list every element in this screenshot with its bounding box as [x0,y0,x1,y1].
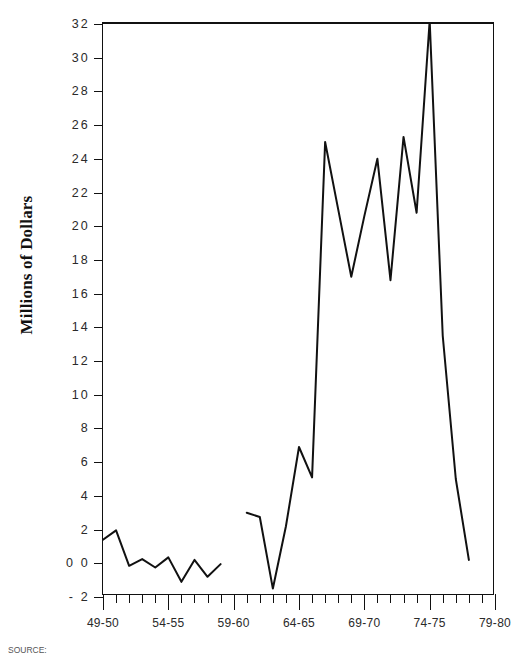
y-axis-tick [94,226,103,227]
y-axis-tick [94,260,103,261]
y-axis-tick-label: 16 [72,287,90,301]
x-axis-minor-tick [129,594,130,603]
y-axis-tick [94,58,103,59]
y-axis-tick [94,563,103,564]
x-axis-tick-label: 74-75 [414,616,446,630]
y-axis-tick-label: 30 [72,51,90,65]
y-axis-tick [94,496,103,497]
x-axis-tick-label: 79-80 [479,616,511,630]
data-line-segment-late [247,24,469,589]
x-axis-minor-tick [221,594,222,603]
y-axis-tick [94,428,103,429]
y-axis-tick [94,327,103,328]
data-line-svg [103,24,495,597]
x-axis-tick-label: 69-70 [348,616,380,630]
y-axis-tick-label: 22 [72,186,90,200]
x-axis-minor-tick [469,594,470,603]
x-axis-minor-tick [456,594,457,603]
y-axis-tick-label: 6 [81,455,90,469]
x-axis-major-tick [299,594,300,610]
data-line-segment-early [103,530,221,581]
y-axis-tick-label: 24 [72,152,90,166]
y-axis-tick [94,395,103,396]
x-axis-minor-tick [260,594,261,603]
y-axis-tick [94,462,103,463]
x-axis-major-tick [234,594,235,610]
x-axis-minor-tick [325,594,326,603]
y-axis-title: Millions of Dollars [17,140,37,390]
x-axis-minor-tick [142,594,143,603]
y-axis-tick [94,294,103,295]
x-axis-major-tick [430,594,431,610]
x-axis-minor-tick [194,594,195,603]
x-axis-minor-tick [417,594,418,603]
y-axis-tick-label: 28 [72,84,90,98]
plot-area: - 20 0246810121416182022242628303249-505… [102,22,494,595]
x-axis-major-tick [168,594,169,610]
y-axis-tick-label: 32 [72,17,90,31]
x-axis-minor-tick [482,594,483,603]
x-axis-tick-label: 59-60 [218,616,250,630]
y-axis-tick [94,361,103,362]
y-axis-tick [94,193,103,194]
x-axis-major-tick [364,594,365,610]
y-axis-tick-label: 26 [72,118,90,132]
y-axis-tick-label: 8 [81,421,90,435]
x-axis-minor-tick [208,594,209,603]
y-axis-tick-label: 4 [81,489,90,503]
x-axis-minor-tick [443,594,444,603]
y-axis-tick [94,597,103,598]
x-axis-minor-tick [273,594,274,603]
y-axis-tick-label: 20 [72,219,90,233]
y-axis-tick-label: 18 [72,253,90,267]
x-axis-minor-tick [312,594,313,603]
y-axis-tick-label: 14 [72,320,90,334]
y-axis-tick [94,125,103,126]
y-axis-tick [94,530,103,531]
x-axis-minor-tick [181,594,182,603]
x-axis-tick-label: 64-65 [283,616,315,630]
chart-figure: Millions of Dollars - 20 024681012141618… [0,0,515,653]
x-axis-minor-tick [351,594,352,603]
x-axis-minor-tick [377,594,378,603]
y-axis-tick-label: 2 [81,523,90,537]
y-axis-tick-label: 12 [72,354,90,368]
y-axis-tick [94,159,103,160]
x-axis-minor-tick [338,594,339,603]
y-axis-tick-label: - 2 [69,590,90,604]
y-axis-tick-label: 10 [72,388,90,402]
x-axis-tick-label: 49-50 [87,616,119,630]
x-axis-minor-tick [155,594,156,603]
x-axis-minor-tick [247,594,248,603]
x-axis-minor-tick [390,594,391,603]
x-axis-minor-tick [286,594,287,603]
y-axis-tick-label: 0 0 [66,556,90,570]
y-axis-tick [94,24,103,25]
x-axis-major-tick [103,594,104,610]
x-axis-minor-tick [116,594,117,603]
source-caption: SOURCE: [8,645,508,653]
x-axis-minor-tick [404,594,405,603]
x-axis-tick-label: 54-55 [152,616,184,630]
y-axis-tick [94,91,103,92]
x-axis-major-tick [495,594,496,610]
